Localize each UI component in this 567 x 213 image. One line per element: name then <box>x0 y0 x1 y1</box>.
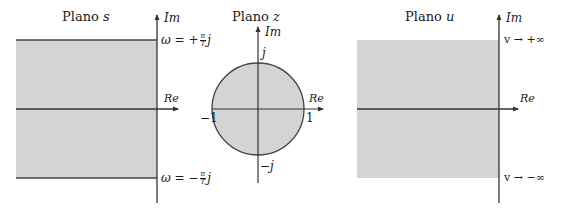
u-plane-re-label: Re <box>520 93 535 104</box>
upper-frac-den: T <box>200 41 207 48</box>
upper-fraction: πT <box>200 33 207 48</box>
lower-fraction: πT <box>200 171 207 186</box>
s-plane-title-var: s <box>103 9 110 24</box>
z-plane-title: Plano z <box>232 10 280 23</box>
u-plane-title: Plano u <box>405 10 454 23</box>
z-plane-im-label: Im <box>265 26 281 38</box>
upper-omega-prefix: ω = + <box>161 33 199 47</box>
z-plane-neg-one-label: −1 <box>200 112 218 124</box>
z-plane-neg-j-label: −j <box>260 160 274 172</box>
z-plane-re-label: Re <box>309 93 324 104</box>
u-plane-upper-annotation: v → +∞ <box>504 34 545 45</box>
s-plane-title: Plano s <box>62 10 110 23</box>
lower-j: j <box>207 171 211 185</box>
s-plane-im-label: Im <box>164 12 180 24</box>
s-plane-upper-annotation: ω = +πTj <box>161 33 211 48</box>
s-plane <box>16 15 178 203</box>
u-plane-title-prefix: Plano <box>405 9 446 24</box>
u-plane-title-var: u <box>446 9 454 24</box>
s-plane-lower-annotation: ω = −πTj <box>161 171 211 186</box>
z-plane-j-label: j <box>262 47 266 59</box>
z-plane-title-prefix: Plano <box>232 9 273 24</box>
u-plane-im-label: Im <box>506 12 522 24</box>
lower-frac-den: T <box>200 179 207 186</box>
z-plane-title-var: z <box>273 9 280 24</box>
s-plane-re-label: Re <box>164 93 179 104</box>
u-plane-lower-annotation: v → −∞ <box>504 172 545 183</box>
figure-graphics <box>0 0 567 213</box>
lower-omega-prefix: ω = − <box>161 171 199 185</box>
upper-j: j <box>207 33 211 47</box>
conformal-mapping-figure: Plano s Im Re ω = +πTj ω = −πTj Plano z … <box>0 0 567 213</box>
z-plane-one-label: 1 <box>306 112 314 124</box>
u-plane <box>357 15 518 203</box>
s-plane-title-prefix: Plano <box>62 9 103 24</box>
